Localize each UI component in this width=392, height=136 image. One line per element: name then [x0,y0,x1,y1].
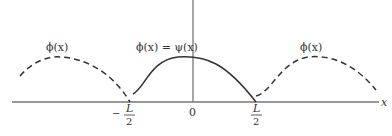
central-curve [133,57,256,102]
tick-denominator: 2 [253,116,259,127]
x-axis-label: x [381,96,388,109]
origin-label: 0 [189,106,196,119]
left-extension-curve [20,57,130,102]
tick-numerator: L [125,102,133,115]
tick-sign: − [112,108,120,119]
tick-neg-half-L: − L 2 [112,102,135,127]
central-curve-label: ϕ(x) = ψ(x) [136,41,198,54]
tick-pos-half-L: L 2 [251,102,262,127]
right-extension-curve [256,57,376,96]
right-curve-label: ϕ(x) [300,41,322,54]
tick-denominator: 2 [126,116,132,127]
left-curve-label: ϕ(x) [46,41,68,54]
tick-numerator: L [252,102,260,115]
diagram-canvas: ϕ(x) ϕ(x) = ψ(x) ϕ(x) x 0 − L 2 L 2 [0,0,392,136]
